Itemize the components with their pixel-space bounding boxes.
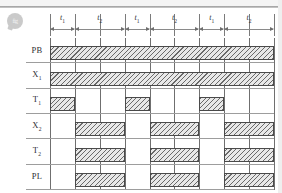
pulse-T2-0: [75, 148, 125, 162]
signal-row-T1: T1: [26, 89, 274, 114]
signal-label-T2: T2: [26, 145, 48, 157]
signal-track-T1: [50, 89, 274, 114]
time-interval-0: t1: [50, 14, 75, 38]
timing-diagram: t1t2t1t2t1t2 PBX1T1X2T2PL: [26, 14, 274, 190]
watermark-badge: fig: [7, 13, 23, 29]
time-interval-3: t2: [150, 14, 200, 38]
pulse-PB-0: [50, 46, 274, 60]
pulse-T2-1: [150, 148, 200, 162]
signal-track-PL: [50, 165, 274, 190]
time-interval-label-2: t1: [125, 13, 150, 26]
time-interval-arrow-2: [126, 29, 149, 30]
time-interval-4: t1: [199, 14, 224, 38]
time-axis: t1t2t1t2t1t2: [50, 14, 274, 38]
time-interval-label-4: t1: [199, 13, 224, 26]
signal-row-PL: PL: [26, 165, 274, 190]
signal-track-X2: [50, 114, 274, 139]
signal-track-T2: [50, 139, 274, 164]
pulse-T1-1: [125, 97, 150, 111]
pulse-X2-2: [224, 122, 274, 136]
pulse-PL-1: [150, 173, 200, 187]
time-interval-arrow-0: [51, 29, 74, 30]
signal-label-T1: T1: [26, 94, 48, 106]
page-top-rule: [0, 6, 282, 8]
signal-row-PB: PB: [26, 38, 274, 63]
signal-label-PB: PB: [26, 45, 48, 55]
pulse-X1-0: [50, 72, 274, 86]
signal-row-T2: T2: [26, 139, 274, 164]
signal-label-X2: X2: [26, 120, 48, 132]
signal-row-X2: X2: [26, 114, 274, 139]
pulse-T1-0: [50, 97, 75, 111]
signal-plot: PBX1T1X2T2PL: [26, 38, 274, 190]
time-interval-arrow-3: [151, 29, 199, 30]
time-interval-arrow-4: [200, 29, 223, 30]
watermark-label: fig: [12, 18, 17, 24]
time-interval-5: t2: [224, 14, 274, 38]
signal-row-X1: X1: [26, 63, 274, 88]
pulse-PL-2: [224, 173, 274, 187]
pulse-X2-1: [150, 122, 200, 136]
pulse-X2-0: [75, 122, 125, 136]
time-interval-2: t1: [125, 14, 150, 38]
time-interval-label-1: t2: [75, 13, 125, 26]
time-interval-label-3: t2: [150, 13, 200, 26]
time-interval-arrow-1: [76, 29, 124, 30]
pulse-PL-0: [75, 173, 125, 187]
pulse-T1-2: [199, 97, 224, 111]
watermark-tail-icon: [7, 24, 13, 30]
gridline-9: [274, 38, 275, 190]
time-interval-label-0: t1: [50, 13, 75, 26]
pulse-T2-2: [224, 148, 274, 162]
axis-tick-9: [274, 14, 275, 36]
page-edge-right: [278, 0, 282, 193]
time-interval-label-5: t2: [224, 13, 274, 26]
signal-label-PL: PL: [26, 171, 48, 181]
signal-track-PB: [50, 38, 274, 63]
signal-label-X1: X1: [26, 69, 48, 81]
time-interval-arrow-5: [225, 29, 273, 30]
time-interval-1: t2: [75, 14, 125, 38]
signal-track-X1: [50, 63, 274, 88]
